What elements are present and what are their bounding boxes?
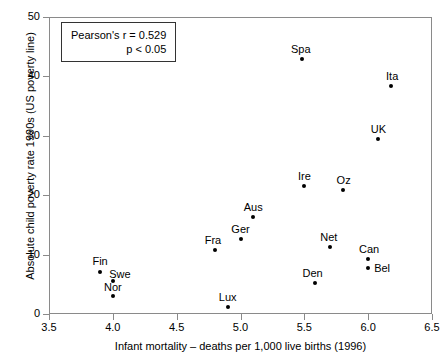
- data-point-label: Ita: [386, 71, 398, 82]
- data-point-marker: [239, 237, 243, 241]
- data-point-label: Nor: [104, 282, 122, 293]
- data-point-marker: [328, 245, 332, 249]
- x-axis-title: Infant mortality – deaths per 1,000 live…: [49, 340, 432, 352]
- data-point-label: Bel: [374, 263, 390, 274]
- y-tick-mark: [43, 76, 49, 77]
- x-tick-mark: [49, 314, 50, 320]
- data-point-label: Lux: [219, 292, 237, 303]
- data-point-marker: [226, 305, 230, 309]
- x-tick-label: 6.0: [348, 322, 388, 333]
- y-tick-mark: [43, 17, 49, 18]
- data-point-label: Spa: [291, 44, 311, 55]
- data-point-marker: [389, 84, 393, 88]
- x-tick-mark: [304, 314, 305, 320]
- x-tick-label: 4.0: [93, 322, 133, 333]
- x-tick-mark: [368, 314, 369, 320]
- data-point-marker: [313, 281, 317, 285]
- data-point-marker: [213, 248, 217, 252]
- data-point-label: Fin: [92, 256, 107, 267]
- y-tick-mark: [43, 136, 49, 137]
- data-point-label: UK: [371, 124, 386, 135]
- y-axis-title: Absolute child poverty rate 1990s (US po…: [24, 0, 36, 316]
- data-point-marker: [300, 57, 304, 61]
- data-point-label: Den: [302, 268, 322, 279]
- data-point-marker: [111, 294, 115, 298]
- data-point-label: Ire: [298, 171, 311, 182]
- x-tick-mark: [432, 314, 433, 320]
- pearson-r-value: Pearson's r = 0.529: [71, 28, 166, 42]
- x-tick-mark: [177, 314, 178, 320]
- data-point-label: Net: [320, 232, 337, 243]
- data-point-label: Swe: [109, 269, 130, 280]
- data-point-marker: [341, 188, 345, 192]
- stats-annotation-box: Pearson's r = 0.529 p < 0.05: [61, 22, 176, 62]
- p-value: p < 0.05: [71, 42, 166, 56]
- y-tick-mark: [43, 195, 49, 196]
- x-tick-label: 3.5: [29, 322, 69, 333]
- x-tick-label: 6.5: [412, 322, 445, 333]
- x-tick-mark: [241, 314, 242, 320]
- data-point-label: Can: [359, 244, 379, 255]
- data-point-marker: [366, 266, 370, 270]
- data-point-label: Oz: [337, 175, 351, 186]
- x-tick-label: 4.5: [157, 322, 197, 333]
- x-tick-label: 5.0: [221, 322, 261, 333]
- data-point-label: Ger: [231, 224, 249, 235]
- data-point-marker: [251, 215, 255, 219]
- data-point-label: Fra: [205, 235, 222, 246]
- x-tick-label: 5.5: [284, 322, 324, 333]
- y-tick-mark: [43, 255, 49, 256]
- x-tick-mark: [113, 314, 114, 320]
- data-point-marker: [366, 257, 370, 261]
- scatter-plot-figure: 01020304050 3.54.04.55.05.56.06.5 FinSwe…: [0, 0, 445, 361]
- data-point-label: Aus: [244, 202, 263, 213]
